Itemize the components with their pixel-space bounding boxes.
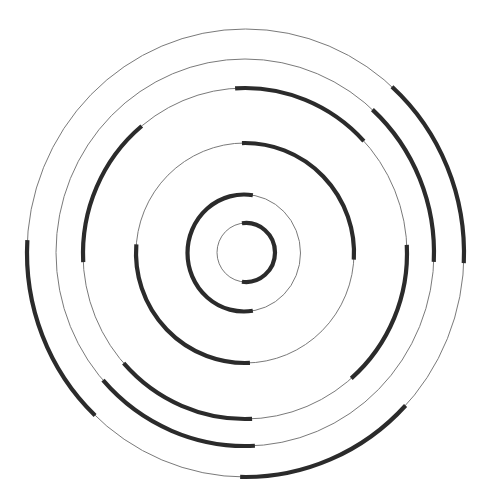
ring-5-thick-arc-2 bbox=[103, 380, 255, 446]
ring-3-thick-arc-1 bbox=[242, 143, 354, 260]
thin-rings bbox=[27, 29, 464, 477]
ring-5-thick-arc-1 bbox=[372, 110, 434, 262]
concentric-maze-diagram bbox=[0, 0, 487, 500]
ring-1-thick-arc-1 bbox=[242, 223, 275, 282]
ring-6-thick-arc-3 bbox=[27, 240, 95, 415]
ring-4-thick-arc-3 bbox=[124, 363, 252, 419]
ring-6 bbox=[27, 29, 464, 477]
ring-6-thick-arc-2 bbox=[240, 405, 405, 477]
ring-6-thick-arc-1 bbox=[392, 87, 464, 263]
thick-arcs bbox=[27, 87, 464, 477]
ring-4-thick-arc-1 bbox=[235, 88, 364, 141]
ring-4-thick-arc-2 bbox=[351, 245, 407, 379]
ring-3-thick-arc-2 bbox=[136, 244, 250, 363]
ring-4-thick-arc-4 bbox=[83, 126, 142, 262]
ring-2-thick-arc-1 bbox=[188, 195, 253, 312]
